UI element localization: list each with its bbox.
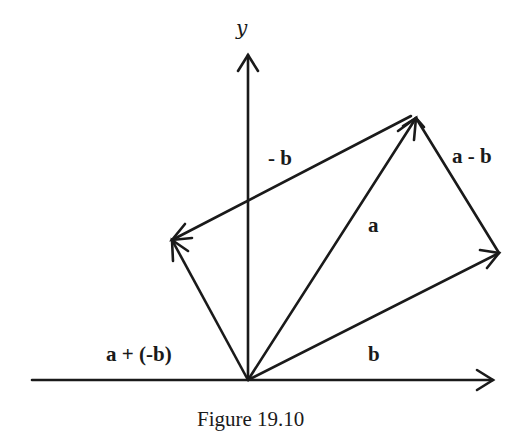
vector-a-label: a [368, 213, 379, 237]
vector-a-plus-neg-b-label: a + (-b) [106, 342, 172, 366]
vector-a-plus-neg-b [172, 240, 248, 380]
vector-neg-b-label: - b [268, 146, 292, 170]
vector-a-minus-b-label: a - b [452, 144, 492, 168]
y-axis-label: y [235, 16, 248, 40]
vector-diagram: y a b - b a - b a + (-b) Figure 19.10 [0, 0, 531, 445]
y-axis [238, 55, 258, 380]
vector-b-label: b [368, 342, 380, 366]
figure-caption: Figure 19.10 [197, 407, 304, 431]
